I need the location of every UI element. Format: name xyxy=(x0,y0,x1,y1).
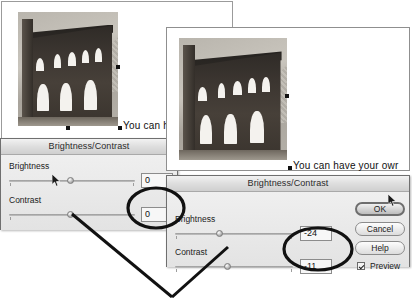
slider-tick-left xyxy=(176,269,177,272)
brightness-slider-back[interactable] xyxy=(9,176,135,186)
photo-left-tower xyxy=(22,19,33,126)
photo-ground xyxy=(18,117,118,126)
selection-handle[interactable] xyxy=(66,126,70,130)
front-document-window[interactable] xyxy=(166,27,410,171)
brightness-value-front[interactable]: -24 xyxy=(300,226,332,241)
photo-arch xyxy=(233,81,242,96)
photo-arch xyxy=(95,48,102,62)
preview-label: Preview xyxy=(370,261,400,271)
brightness-contrast-dialog-back[interactable]: Brightness/Contrast Brightness 0 Contras… xyxy=(0,138,178,230)
photo-arch xyxy=(250,111,264,143)
caption-bullet xyxy=(118,126,122,130)
slider-track xyxy=(175,266,293,268)
photo-arch xyxy=(68,52,76,66)
slider-tick-right xyxy=(133,217,134,220)
photo-arch xyxy=(248,78,256,93)
contrast-label-back: Contrast xyxy=(9,195,41,205)
caption-bullet xyxy=(288,166,292,170)
photo-ground xyxy=(179,150,287,160)
photo-left-tower xyxy=(183,45,195,160)
slider-tick-left xyxy=(10,217,11,220)
brightness-slider-knob-back[interactable] xyxy=(67,177,74,184)
contrast-slider-knob-front[interactable] xyxy=(224,263,231,270)
brightness-slider-knob-front[interactable] xyxy=(216,230,223,237)
dialog-title-front: Brightness/Contrast xyxy=(167,176,409,192)
screenshot-stage: You can ha Brightness/Contrast Brightnes… xyxy=(0,0,412,298)
photo-arch xyxy=(84,80,97,110)
selection-handle[interactable] xyxy=(116,65,120,69)
brightness-contrast-dialog-front[interactable]: Brightness/Contrast Brightness -24 Contr… xyxy=(166,175,410,267)
slider-tick-left xyxy=(176,236,177,239)
brightness-slider-front[interactable] xyxy=(175,229,293,239)
preview-checkbox[interactable] xyxy=(357,262,365,270)
photo-arch xyxy=(60,83,72,112)
slider-tick-left xyxy=(10,183,11,186)
slider-tick-right xyxy=(291,236,292,239)
brightness-label-front: Brightness xyxy=(175,214,215,224)
contrast-slider-knob-back[interactable] xyxy=(67,211,74,218)
photo-image-front xyxy=(179,38,287,160)
help-button[interactable]: Help xyxy=(355,241,405,255)
slider-tick-right xyxy=(133,183,134,186)
slider-tick-right xyxy=(291,269,292,272)
contrast-value-front[interactable]: -11 xyxy=(300,259,332,274)
cancel-button[interactable]: Cancel xyxy=(355,222,405,236)
photo-canvas-front[interactable] xyxy=(179,38,287,160)
photo-arch xyxy=(54,54,61,68)
mouse-cursor-ok-button xyxy=(388,194,397,207)
dialog-body-front: Brightness -24 Contrast -11 OK Cancel He… xyxy=(167,192,409,267)
mouse-cursor-back-dialog xyxy=(52,174,61,187)
photo-arch xyxy=(37,84,49,111)
contrast-label-front: Contrast xyxy=(175,247,207,257)
contrast-slider-front[interactable] xyxy=(175,262,293,272)
dialog-title-back: Brightness/Contrast xyxy=(1,139,177,155)
selection-handle[interactable] xyxy=(285,94,289,98)
photo-arch xyxy=(262,77,270,92)
ok-button[interactable]: OK xyxy=(355,202,405,216)
photo-canvas-back[interactable] xyxy=(18,12,118,126)
contrast-slider-back[interactable] xyxy=(9,210,135,220)
caption-text-front: You can have your owr xyxy=(293,160,399,171)
slider-track xyxy=(175,233,293,235)
brightness-label-back: Brightness xyxy=(9,161,49,171)
photo-image-back xyxy=(18,12,118,126)
dialog-body-back: Brightness 0 Contrast 0 xyxy=(1,155,177,230)
